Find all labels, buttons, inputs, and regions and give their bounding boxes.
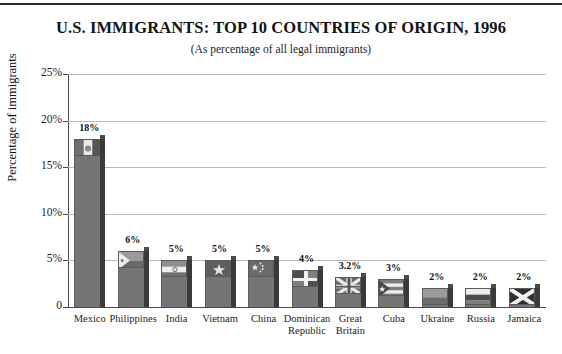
bar-side-face [491,288,496,307]
bar: 3.2% [335,74,366,307]
bar-top-face [318,266,323,270]
flag-india-icon [161,260,187,277]
y-axis-tick: 0 [0,299,68,311]
x-axis-line [68,307,546,308]
y-axis-tick: 25% [0,66,68,78]
bar: 5% [248,74,279,307]
y-axis-tick: 15% [0,159,68,171]
bar: 4% [292,74,323,307]
x-axis-tick-line: Britain [311,325,389,337]
flag-great-britain-icon [335,277,361,294]
bar-value-label: 2% [416,271,458,282]
bar-side-face [231,260,236,307]
bar-value-label: 5% [242,243,284,254]
bar-top-face [491,284,496,288]
bar-top-face [187,256,192,260]
bar-value-label: 5% [199,243,241,254]
bar-side-face [404,279,409,307]
chart-subtitle: (As percentage of all legal immigrants) [0,43,562,55]
bar-value-label: 2% [503,271,545,282]
x-axis-tick: Jamaica [485,313,562,325]
bar-side-face [187,260,192,307]
bar-value-label: 3% [372,262,414,273]
flag-philippines-icon [118,251,144,268]
chart-title: U.S. IMMIGRANTS: TOP 10 COUNTRIES OF ORI… [0,18,562,38]
bar: 2% [422,74,453,307]
bar-value-label: 5% [155,243,197,254]
bar: 6% [118,74,149,307]
flag-cuba-icon [378,279,404,296]
bar-value-label: 18% [68,122,110,133]
flag-russia-icon [465,288,491,305]
x-axis-tick-line: Jamaica [485,313,562,325]
bar-side-face [448,288,453,307]
flag-vietnam-icon [205,260,231,277]
y-axis-tick: 20% [0,113,68,125]
flag-mexico-icon [74,139,100,156]
bar: 2% [465,74,496,307]
bar: 5% [205,74,236,307]
immigration-bar-chart: U.S. IMMIGRANTS: TOP 10 COUNTRIES OF ORI… [0,0,562,354]
bar-top-face [274,256,279,260]
bar-value-label: 2% [459,271,501,282]
bar-face [74,139,101,307]
bar-value-label: 6% [112,234,154,245]
bar: 3% [378,74,409,307]
bar: 18% [74,74,105,307]
bar-value-label: 4% [286,253,328,264]
bar-side-face [535,288,540,307]
bar-top-face [231,256,236,260]
bar-top-face [100,135,105,139]
bar-top-face [404,275,409,279]
bar: 5% [161,74,192,307]
plot-area: 18%6%5%5%5%4%3.2%3%2%2%2% [68,74,546,307]
bar-side-face [100,139,105,307]
flag-ukraine-icon [422,288,448,305]
y-axis-tick: 10% [0,206,68,218]
bar-top-face [448,284,453,288]
bar-value-label: 3.2% [329,260,371,271]
bar-side-face [274,260,279,307]
flag-dominican-republic-icon [292,270,318,287]
bar-top-face [144,247,149,251]
bar: 2% [509,74,540,307]
bar-side-face [318,270,323,307]
flag-jamaica-icon [509,288,535,305]
bar-top-face [535,284,540,288]
flag-china-icon [248,260,274,277]
y-axis-tick: 5% [0,252,68,264]
bar-side-face [144,251,149,307]
bar-top-face [361,273,366,277]
bar-side-face [361,277,366,307]
